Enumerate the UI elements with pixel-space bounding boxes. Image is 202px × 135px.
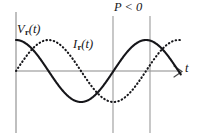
waveform-figure: Vr(t) Ir(t) P < 0 t (0, 0, 202, 135)
current-label: Ir(t) (73, 38, 93, 51)
voltage-label: Vr(t) (17, 23, 41, 36)
voltage-label-argument: (t) (29, 22, 41, 36)
power-region-label: P < 0 (114, 1, 142, 14)
time-axis-label: t (185, 62, 188, 75)
plot-canvas (0, 0, 202, 135)
voltage-label-symbol: V (17, 22, 25, 36)
current-label-argument: (t) (81, 37, 93, 51)
